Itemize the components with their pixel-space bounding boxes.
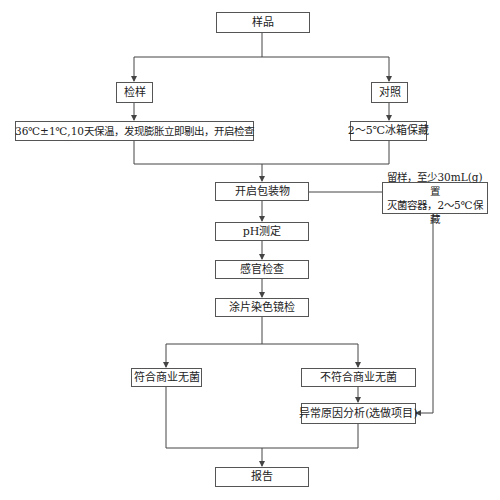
node-open-package: 开启包装物 xyxy=(215,182,309,201)
node-report: 报告 xyxy=(215,467,309,487)
node-test-sample: 检样 xyxy=(116,82,153,103)
node-fridge: 2～5℃冰箱保藏 xyxy=(350,121,427,141)
node-compliant: 符合商业无菌 xyxy=(131,368,202,387)
retain-line-2: 灭菌容器，2～5℃保藏 xyxy=(385,198,485,226)
retain-line-1: 留样，至少30mL(g)置 xyxy=(385,170,485,198)
node-control: 对照 xyxy=(371,82,408,103)
node-sample: 样品 xyxy=(216,12,310,33)
node-retain-sample: 留样，至少30mL(g)置 灭菌容器，2～5℃保藏 xyxy=(382,182,488,214)
node-ph: pH测定 xyxy=(215,222,309,241)
node-sensory: 感官检查 xyxy=(215,260,309,279)
node-analysis: 异常原因分析(选做项目) xyxy=(301,403,416,424)
connector-lines xyxy=(0,0,500,500)
node-noncompliant: 不符合商业无菌 xyxy=(301,368,416,387)
node-smear: 涂片染色镜检 xyxy=(215,298,309,317)
node-incubation: 36℃±1℃,10天保温，发现膨胀立即剔出，开启检查 xyxy=(15,121,254,141)
flowchart: 样品 检样 对照 36℃±1℃,10天保温，发现膨胀立即剔出，开启检查 2～5℃… xyxy=(0,0,500,500)
